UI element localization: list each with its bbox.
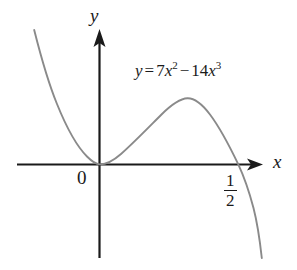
function-graph-figure: y x 0 y=7x2−14x3 1 2 xyxy=(0,0,297,270)
equation-label: y=7x2−14x3 xyxy=(135,62,221,79)
fraction-numerator: 1 xyxy=(224,172,237,189)
x-tick-label-one-half: 1 2 xyxy=(224,172,237,209)
x-axis-label: x xyxy=(273,152,281,171)
equation-term2-coefficient: 14 xyxy=(191,61,208,80)
fraction-denominator: 2 xyxy=(224,192,237,209)
equation-term1-coefficient: 7 xyxy=(156,61,165,80)
equation-term1-exponent: 2 xyxy=(172,59,178,71)
equation-lhs: y xyxy=(135,61,143,80)
origin-label: 0 xyxy=(77,168,87,187)
equation-equals: = xyxy=(143,61,157,80)
y-axis-label: y xyxy=(90,6,98,25)
equation-operator: − xyxy=(178,61,192,80)
equation-term2-exponent: 3 xyxy=(216,59,222,71)
equation-term2-variable: x xyxy=(208,61,216,80)
graph-canvas xyxy=(0,0,297,270)
